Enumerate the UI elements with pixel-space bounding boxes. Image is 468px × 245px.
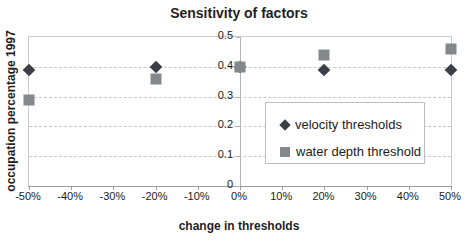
y-tick-label: 0.3 xyxy=(194,89,233,102)
x-tick-label: 40% xyxy=(397,190,419,203)
x-tick-label: 50% xyxy=(439,190,461,203)
value-axis-line xyxy=(240,37,241,186)
data-point-water-depth-threshold xyxy=(319,49,330,60)
data-point-water-depth-threshold xyxy=(24,94,35,105)
data-point-velocity-thresholds xyxy=(445,63,458,76)
data-point-velocity-thresholds xyxy=(149,60,162,73)
sensitivity-chart: Sensitivity of factors occupation percen… xyxy=(0,0,468,245)
y-axis-title: occupation percentage 1997 xyxy=(4,30,18,191)
y-tick-label: 0.5 xyxy=(194,29,233,42)
x-tick-label: -10% xyxy=(184,190,210,203)
legend: velocity thresholds water depth threshol… xyxy=(265,102,425,164)
x-tick-label: 30% xyxy=(355,190,377,203)
x-tick-label: 0% xyxy=(231,190,247,203)
y-tick-mark xyxy=(236,97,240,98)
data-point-velocity-thresholds xyxy=(23,63,36,76)
x-tick-label: -50% xyxy=(15,190,41,203)
square-marker-icon xyxy=(280,147,290,157)
diamond-marker-icon xyxy=(279,119,290,130)
legend-item-label: water depth threshold xyxy=(296,144,421,159)
x-tick-label: -40% xyxy=(57,190,83,203)
x-tick-label: 10% xyxy=(270,190,292,203)
y-tick-label: 0.4 xyxy=(194,59,233,72)
y-tick-mark xyxy=(236,156,240,157)
y-tick-mark xyxy=(236,126,240,127)
x-tick-label: 20% xyxy=(312,190,334,203)
data-point-water-depth-threshold xyxy=(150,73,161,84)
x-tick-label: -20% xyxy=(142,190,168,203)
data-point-water-depth-threshold xyxy=(446,43,457,54)
x-axis-title: change in thresholds xyxy=(28,219,450,233)
legend-item-velocity-thresholds: velocity thresholds xyxy=(280,111,424,138)
data-point-water-depth-threshold xyxy=(235,61,246,72)
y-tick-mark xyxy=(236,37,240,38)
x-tick-label: -30% xyxy=(100,190,126,203)
data-point-velocity-thresholds xyxy=(318,63,331,76)
legend-item-label: velocity thresholds xyxy=(295,117,402,132)
legend-item-water-depth-threshold: water depth threshold xyxy=(280,138,424,165)
y-tick-label: 0.2 xyxy=(194,118,233,131)
chart-title: Sensitivity of factors xyxy=(28,5,450,21)
y-tick-label: 0.1 xyxy=(194,148,233,161)
